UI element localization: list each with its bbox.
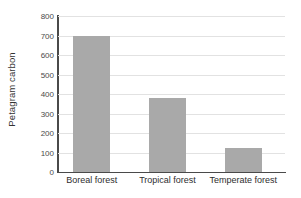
y-axis-tick-label: 800 [6, 12, 58, 21]
plot-area [58, 16, 285, 172]
x-axis-category-label: Tropical forest [139, 175, 196, 185]
y-axis-tick-label: 0 [6, 168, 58, 177]
y-axis-tick-label: 700 [6, 31, 58, 40]
y-axis-tick-label: 200 [6, 129, 58, 138]
x-axis-category-label: Boreal forest [66, 175, 117, 185]
y-axis-tick-label: 100 [6, 148, 58, 157]
y-axis-tick-label: 500 [6, 70, 58, 79]
gridline [58, 16, 285, 17]
x-axis-category-label: Temperate forest [209, 175, 277, 185]
bar [149, 98, 186, 172]
bar [73, 36, 110, 173]
bar [225, 148, 262, 172]
y-axis-tick-label: 300 [6, 109, 58, 118]
y-axis-tick-label: 600 [6, 51, 58, 60]
y-axis-tick-labels: 8007006005004003002001000 [0, 16, 58, 172]
y-axis-tick-label: 400 [6, 90, 58, 99]
bar-chart: Petagram carbon 800700600500400300200100… [0, 0, 301, 198]
